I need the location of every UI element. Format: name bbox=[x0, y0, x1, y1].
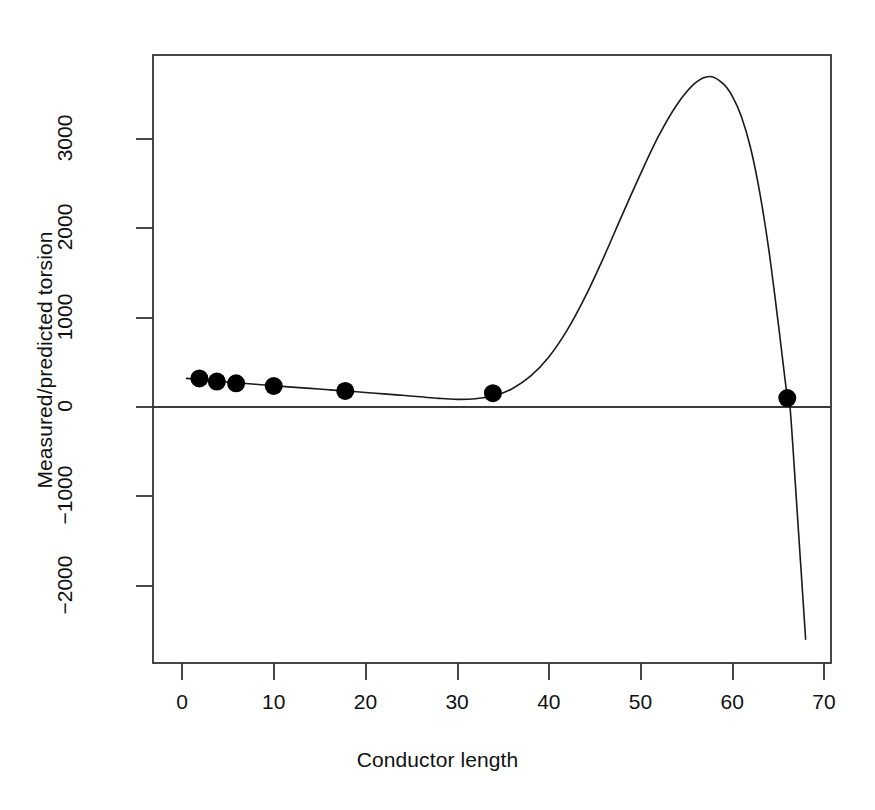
data-point bbox=[484, 384, 502, 402]
plot-box bbox=[153, 55, 831, 663]
data-point bbox=[778, 389, 796, 407]
data-point bbox=[208, 373, 226, 391]
x-tick-label: 70 bbox=[784, 690, 864, 714]
data-point bbox=[227, 374, 245, 392]
data-point bbox=[336, 382, 354, 400]
x-tick-label: 30 bbox=[417, 690, 497, 714]
x-axis-title: Conductor length bbox=[0, 748, 875, 772]
observed-points-series bbox=[190, 369, 796, 407]
data-point bbox=[190, 369, 208, 387]
x-tick-label: 40 bbox=[509, 690, 589, 714]
fitted-curve-series bbox=[187, 76, 806, 639]
x-tick-label: 0 bbox=[142, 690, 222, 714]
chart-figure: Measured/predicted torsion Conductor len… bbox=[0, 0, 875, 810]
plot-canvas bbox=[0, 0, 875, 810]
x-axis-tick-marks bbox=[182, 663, 824, 680]
x-tick-label: 20 bbox=[325, 690, 405, 714]
x-tick-label: 60 bbox=[692, 690, 772, 714]
y-tick-label: 3000 bbox=[53, 83, 77, 193]
x-tick-label: 10 bbox=[234, 690, 314, 714]
y-axis-tick-marks bbox=[136, 139, 153, 586]
data-point bbox=[265, 377, 283, 395]
x-tick-label: 50 bbox=[601, 690, 681, 714]
